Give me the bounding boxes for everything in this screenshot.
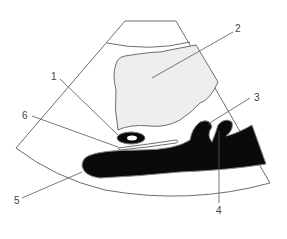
structure-1-lumen	[127, 136, 137, 141]
label-3: 3	[254, 92, 260, 103]
label-6: 6	[22, 110, 28, 121]
label-1: 1	[51, 71, 57, 82]
label-5: 5	[14, 195, 20, 206]
leader-5	[22, 172, 82, 198]
ultrasound-diagram: 1 2 3 4 5 6	[0, 0, 287, 239]
label-4: 4	[216, 205, 222, 216]
label-2: 2	[235, 23, 241, 34]
